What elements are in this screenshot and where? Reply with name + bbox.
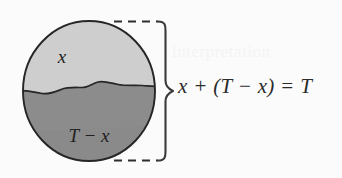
figure-canvas: x T − x interpretation x + (T − x) = T [0,0,342,178]
curly-brace [158,22,173,161]
brace-equation-label: x + (T − x) = T [178,74,312,99]
lower-region-label: T − x [69,125,111,146]
upper-region-label: x [57,46,67,67]
